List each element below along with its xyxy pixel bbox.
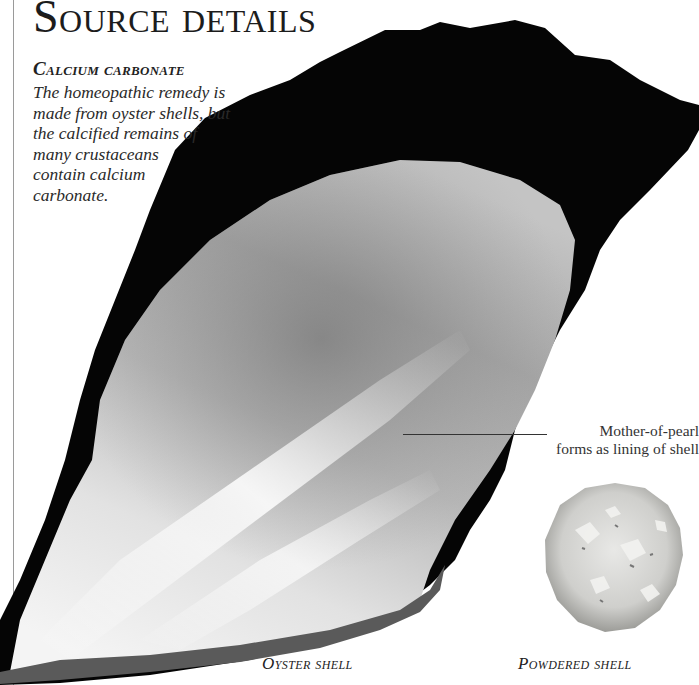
body-line: contain calcium <box>33 164 243 185</box>
caption-powdered-shell: Powdered shell <box>518 654 632 674</box>
mother-of-pearl-callout: Mother-of-pearl forms as lining of shell <box>541 422 699 458</box>
page-title: Source details <box>33 0 316 43</box>
section-body: The homeopathic remedy is made from oyst… <box>33 82 243 205</box>
section-heading: Calcium carbonate <box>33 58 185 80</box>
caption-oyster-shell: Oyster shell <box>262 654 353 674</box>
body-line: many crustaceans <box>33 144 243 165</box>
powdered-shell-photo <box>545 483 683 632</box>
body-line: The homeopathic remedy is <box>33 82 243 103</box>
body-line: the calcified remains of <box>33 123 243 144</box>
callout-line-1: Mother-of-pearl <box>541 422 699 440</box>
callout-leader-line <box>403 434 547 435</box>
body-line: made from oyster shells, but <box>33 103 243 124</box>
callout-line-2: forms as lining of shell <box>541 440 699 458</box>
body-line: carbonate. <box>33 185 243 206</box>
